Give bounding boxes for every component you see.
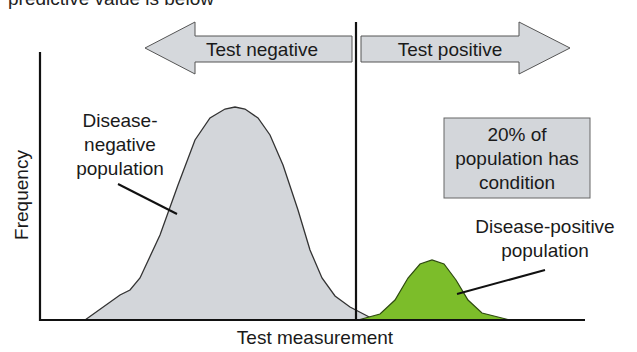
y-axis-label: Frequency (11, 150, 32, 240)
prevalence-line-1: 20% of (487, 124, 547, 145)
x-axis-label: Test measurement (237, 327, 394, 348)
disease-positive-label-line-2: population (501, 240, 589, 261)
test-negative-label: Test negative (206, 39, 318, 60)
prevalence-line-3: condition (479, 172, 555, 193)
test-positive-label: Test positive (398, 39, 503, 60)
disease-positive-curve (358, 260, 510, 320)
disease-negative-label-line-2: negative (84, 134, 156, 155)
disease-negative-leader-line (118, 184, 177, 214)
disease-negative-label-line-1: Disease- (83, 110, 158, 131)
disease-positive-label-line-1: Disease-positive (475, 216, 614, 237)
prevalence-line-2: population has (455, 148, 579, 169)
test-threshold-diagram: Test negative Test positive Frequency Te… (0, 0, 637, 352)
disease-positive-leader-line (457, 270, 545, 294)
disease-negative-label-line-3: population (76, 158, 164, 179)
